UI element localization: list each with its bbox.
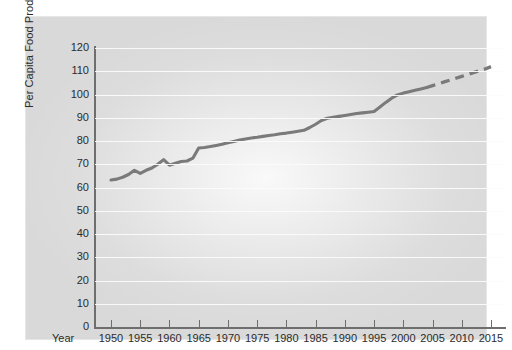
chart-figure: Per Capita Food Production Year 01020304…: [0, 0, 512, 350]
y-tick-label: 50: [47, 205, 89, 216]
y-tick-label: 0: [47, 321, 89, 332]
y-tick-label: 90: [47, 112, 89, 123]
line-series-historical: [111, 88, 427, 181]
y-tick-label: 30: [47, 251, 89, 262]
y-axis-label: Per Capita Food Production: [23, 0, 35, 108]
gridline: [95, 141, 505, 142]
gridline: [95, 48, 505, 49]
y-tick-label: 120: [47, 42, 89, 53]
gridline: [95, 95, 505, 96]
plot-area: [95, 48, 505, 327]
x-axis-line: [95, 327, 506, 329]
gridline: [95, 188, 505, 189]
x-tick-label: 2015: [469, 332, 512, 344]
gridline: [95, 257, 505, 258]
y-tick-label: 80: [47, 135, 89, 146]
gridline: [95, 281, 505, 282]
gridline: [95, 211, 505, 212]
y-tick-label: 60: [47, 182, 89, 193]
gridline: [95, 304, 505, 305]
chart-panel: Per Capita Food Production Year 01020304…: [25, 16, 487, 340]
line-series-projected: [427, 67, 491, 88]
y-tick-label: 20: [47, 275, 89, 286]
y-tick-label: 40: [47, 228, 89, 239]
y-tick-label: 110: [47, 65, 89, 76]
gridline: [95, 118, 505, 119]
y-tick-label: 100: [47, 89, 89, 100]
gridline: [95, 164, 505, 165]
gridline: [95, 71, 505, 72]
x-axis-label: Year: [52, 332, 74, 344]
y-tick-label: 70: [47, 158, 89, 169]
y-tick-label: 10: [47, 298, 89, 309]
gridline: [95, 234, 505, 235]
